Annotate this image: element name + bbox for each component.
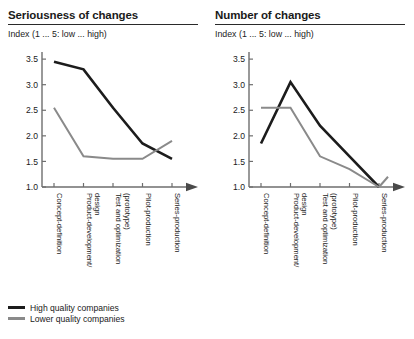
x-axis-category-label: Test and optimization — [321, 193, 330, 264]
chart-subtitle-secondary: Index (1 ... 5: low ... high) — [215, 29, 414, 39]
y-axis-tick-label: 1.5 — [233, 157, 245, 167]
page-title: Seriousness of changes — [8, 0, 207, 21]
x-axis-category-label: Concept-definition — [55, 193, 64, 254]
y-axis-tick-label: 2.0 — [233, 131, 245, 141]
y-axis-tick-label: 3.0 — [26, 80, 38, 90]
series-line-high-quality — [261, 82, 379, 187]
plot-area-number: 1.01.52.02.53.03.5Concept-definitionProd… — [215, 46, 414, 286]
legend-item-low: Lower quality companies — [8, 313, 268, 324]
charts-container: Seriousness of changes Index (1 ... 5: l… — [0, 0, 414, 286]
series-line-lower-quality — [54, 108, 172, 159]
x-axis-category-label: Series-production — [173, 193, 182, 253]
x-axis-category-label: (prototype) — [123, 193, 132, 230]
y-axis-tick-label: 1.5 — [26, 157, 38, 167]
series-line-lower-quality — [261, 108, 379, 187]
y-axis-tick-label: 1.0 — [233, 182, 245, 192]
y-axis-tick-label: 2.5 — [233, 105, 245, 115]
y-axis-tick-label: 3.5 — [26, 54, 38, 64]
chart-svg-seriousness: 1.01.52.02.53.03.5Concept-definitionProd… — [8, 46, 207, 286]
x-axis-category-label: design — [300, 193, 309, 215]
legend-label-high: High quality companies — [30, 303, 119, 313]
x-axis-category-label: Pilot-production — [351, 193, 360, 246]
x-axis-category-label: Test and optimization — [114, 193, 123, 264]
chart-panel-number: Number of changes Index (1 ... 5: low ..… — [207, 0, 414, 286]
chart-panel-seriousness: Seriousness of changes Index (1 ... 5: l… — [0, 0, 207, 286]
y-axis-tick-label: 3.0 — [233, 80, 245, 90]
x-axis-category-label: Series-production — [380, 193, 389, 253]
series-annotation-uptick — [379, 177, 388, 187]
x-axis-category-label: Concept-definition — [262, 193, 271, 254]
chart-subtitle: Index (1 ... 5: low ... high) — [8, 29, 207, 39]
y-axis-tick-label: 2.5 — [26, 105, 38, 115]
y-axis-tick-label: 3.5 — [233, 54, 245, 64]
x-axis-category-label: (prototype) — [330, 193, 339, 230]
x-axis-category-label: design — [93, 193, 102, 215]
chart-legend: High quality companies Lower quality com… — [8, 302, 268, 324]
legend-item-high: High quality companies — [8, 302, 268, 313]
series-line-high-quality — [54, 62, 172, 159]
page-title-secondary: Number of changes — [215, 0, 414, 21]
title-divider-secondary — [215, 24, 405, 25]
x-axis-category-label: Product-development/ — [292, 193, 301, 268]
legend-label-low: Lower quality companies — [30, 314, 125, 324]
x-axis-category-label: Product-development/ — [85, 193, 94, 268]
x-axis-category-label: Pilot-production — [144, 193, 153, 246]
y-axis-tick-label: 1.0 — [26, 182, 38, 192]
plot-area-seriousness: 1.01.52.02.53.03.5Concept-definitionProd… — [8, 46, 207, 286]
chart-svg-number: 1.01.52.02.53.03.5Concept-definitionProd… — [215, 46, 414, 286]
title-divider — [8, 24, 198, 25]
legend-swatch-icon-low — [8, 317, 25, 320]
legend-swatch-icon-high — [8, 306, 25, 309]
y-axis-tick-label: 2.0 — [26, 131, 38, 141]
